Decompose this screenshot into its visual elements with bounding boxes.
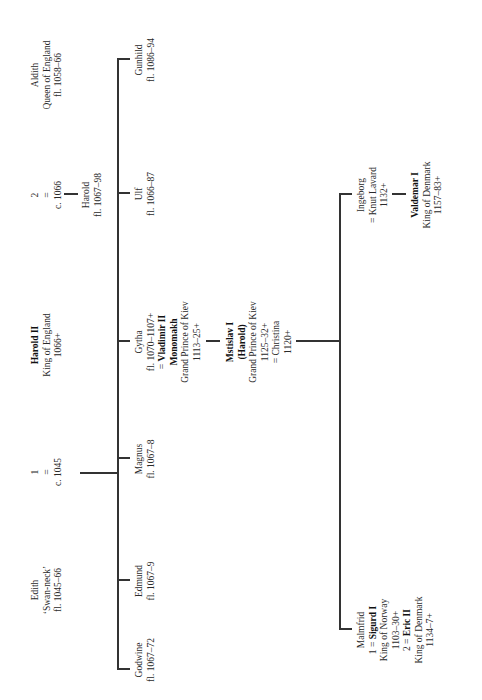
gytha-spouse-dates: 1113–25+ [192, 301, 204, 383]
malmfrid-m2-title: King of Denmark [414, 596, 426, 663]
valdemar-dates: 1157–83+ [433, 161, 445, 228]
malmfrid-m1-title: King of Norway [379, 596, 391, 663]
person-harold-son: Harold fl. 1067–98 [81, 173, 104, 217]
person-gunhild: Gunhild fl. 1086–94 [134, 38, 157, 82]
mstislav-spouse-dates: 1120+ [283, 301, 295, 383]
mstislav-spouse: = Christina [271, 301, 283, 383]
harold-ii-name: Harold II [30, 326, 40, 365]
person-aldith: Aldith Queen of England fl. 1058–66 [30, 40, 65, 109]
valdemar-title: King of Denmark [422, 161, 434, 228]
person-edith: Edith ‘Swan-neck’ fl. 1045–66 [30, 566, 65, 615]
godwine-dates: fl. 1067–72 [146, 638, 158, 682]
gytha-spouse-name: Vladimir II [157, 315, 167, 362]
grandchildren-bar [339, 193, 341, 630]
gytha-spouse-epithet: Monomakh [169, 319, 179, 366]
aldith-dates: fl. 1058–66 [53, 40, 65, 109]
gytha-spouse-prefix: = [157, 361, 167, 369]
harold-ii-dates: 1066+ [53, 313, 65, 376]
gytha-spouse-title: Grand Prince of Kiev [180, 301, 192, 383]
stub-godwine [117, 668, 130, 670]
malmfrid-m2-dates: 1134–7+ [425, 596, 437, 663]
malmfrid-m1-spouse: Sigurd I [368, 606, 378, 640]
mstislav-title: Grand Prince of Kiev [248, 301, 260, 383]
aldith-title: Queen of England [42, 40, 54, 109]
mstislav-alias: (Harold) [237, 324, 247, 359]
gytha-descent-line [206, 340, 220, 342]
malmfrid-m2-prefix: 2 = [402, 636, 412, 651]
marriage-2-number: 2 [30, 181, 42, 209]
malmfrid-name: Malmfrid [356, 596, 368, 663]
person-valdemar: Valdemar I King of Denmark 1157–83+ [410, 161, 445, 228]
marriage-2-equals: = [42, 181, 54, 209]
marriage-2-date: c. 1066 [53, 181, 65, 209]
harold-son-name: Harold [81, 173, 93, 217]
harold-son-dates: fl. 1067–98 [93, 173, 105, 217]
mstislav-dates: 1125–32+ [260, 301, 272, 383]
ingeborg-spouse: = Knut Lavard [368, 167, 380, 223]
gunhild-dates: fl. 1086–94 [146, 38, 158, 82]
person-malmfrid: Malmfrid 1 = Sigurd I King of Norway 110… [356, 596, 437, 663]
edith-dates: fl. 1045–66 [53, 566, 65, 615]
stub-edmund [117, 579, 130, 581]
family-tree-diagram: Edith ‘Swan-neck’ fl. 1045–66 1 = c. 104… [0, 0, 482, 700]
valdemar-name: Valdemar I [410, 172, 420, 218]
person-godwine: Godwine fl. 1067–72 [134, 638, 157, 682]
gytha-name: Gytha [134, 301, 146, 383]
malmfrid-m1-dates: 1103–30+ [391, 596, 403, 663]
godwine-name: Godwine [134, 638, 146, 682]
edmund-dates: fl. 1067–9 [146, 561, 158, 600]
marriage-1-label: 1 = c. 1045 [30, 458, 65, 486]
stub-magnus [117, 457, 130, 459]
ingeborg-descent-line [392, 193, 406, 195]
mstislav-descent-line [296, 340, 340, 342]
malmfrid-m1-prefix: 1 = [368, 639, 378, 654]
marriage-1-number: 1 [30, 458, 42, 486]
magnus-dates: fl. 1067–8 [146, 439, 158, 478]
aldith-name: Aldith [30, 40, 42, 109]
person-harold-ii: Harold II King of England 1066+ [30, 313, 65, 376]
person-mstislav: Mstislav I (Harold) Grand Prince of Kiev… [225, 301, 294, 383]
person-ulf: Ulf fl. 1066–87 [134, 172, 157, 216]
stub-gytha [117, 340, 130, 342]
edmund-name: Edmund [134, 561, 146, 600]
stub-ulf [117, 192, 130, 194]
person-magnus: Magnus fl. 1067–8 [134, 439, 157, 478]
person-ingeborg: Ingeborg = Knut Lavard 1132+ [356, 167, 391, 223]
gunhild-name: Gunhild [134, 38, 146, 82]
malmfrid-m2-spouse: Eric II [402, 609, 412, 636]
stub-gunhild [117, 58, 130, 60]
ulf-name: Ulf [134, 172, 146, 216]
ingeborg-name: Ingeborg [356, 167, 368, 223]
ingeborg-spouse-dates: 1132+ [379, 167, 391, 223]
marriage-2-descent-line [64, 193, 78, 195]
edith-epithet: ‘Swan-neck’ [42, 566, 54, 615]
gytha-dates: fl. 1070–1107+ [146, 301, 158, 383]
mstislav-name: Mstislav I [225, 322, 235, 362]
marriage-1-date: c. 1045 [53, 458, 65, 486]
person-gytha: Gytha fl. 1070–1107+ = Vladimir II Monom… [134, 301, 203, 383]
children-bar [117, 59, 119, 670]
stub-ingeborg [339, 193, 352, 195]
stub-malmfrid [339, 628, 352, 630]
harold-ii-title: King of England [42, 313, 54, 376]
magnus-name: Magnus [134, 439, 146, 478]
person-edmund: Edmund fl. 1067–9 [134, 561, 157, 600]
marriage-2-label: 2 = c. 1066 [30, 181, 65, 209]
ulf-dates: fl. 1066–87 [146, 172, 158, 216]
edith-name: Edith [30, 566, 42, 615]
marriage-1-equals: = [42, 458, 54, 486]
marriage-1-descent-line [80, 472, 118, 474]
